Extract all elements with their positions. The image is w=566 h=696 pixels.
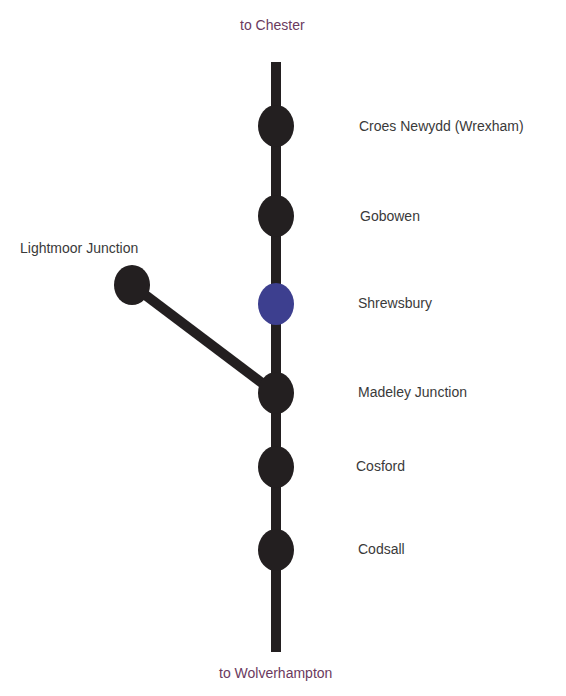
- station-label-shrewsbury: Shrewsbury: [358, 295, 432, 311]
- branch-track-line: [132, 285, 274, 392]
- station-marker-gobowen[interactable]: [258, 195, 294, 237]
- direction-label-north: to Chester: [240, 17, 305, 33]
- station-label-gobowen: Gobowen: [360, 208, 420, 224]
- station-label-codsall: Codsall: [358, 541, 405, 557]
- station-marker-shrewsbury[interactable]: [258, 283, 294, 325]
- station-marker-cosford[interactable]: [258, 446, 294, 488]
- route-graphic: [0, 0, 566, 696]
- station-marker-croes-newydd[interactable]: [258, 105, 294, 147]
- station-label-croes-newydd: Croes Newydd (Wrexham): [359, 118, 524, 134]
- station-label-cosford: Cosford: [356, 458, 405, 474]
- station-marker-lightmoor-junction[interactable]: [114, 265, 150, 305]
- station-marker-madeley-junction[interactable]: [258, 372, 294, 414]
- station-label-madeley-junction: Madeley Junction: [358, 384, 467, 400]
- direction-label-south: to Wolverhampton: [219, 665, 332, 681]
- station-marker-codsall[interactable]: [258, 529, 294, 571]
- station-label-lightmoor-junction: Lightmoor Junction: [20, 240, 138, 256]
- rail-route-diagram: to Chester to Wolverhampton Croes Newydd…: [0, 0, 566, 696]
